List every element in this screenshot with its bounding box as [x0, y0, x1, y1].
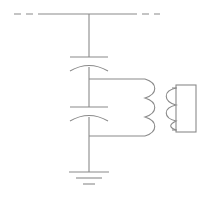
- load-box: [176, 85, 196, 132]
- transformer-primary-winding: [145, 79, 155, 136]
- primary-coil-path: [145, 79, 155, 136]
- load-box-rect: [176, 85, 196, 132]
- circuit-schematic-svg: Capacitive voltage divider with coupling…: [0, 0, 204, 199]
- circuit-diagram: Capacitive voltage divider with coupling…: [0, 0, 204, 199]
- transformer-secondary-winding: [166, 88, 176, 130]
- secondary-coil-path: [166, 88, 176, 130]
- ground-symbol: [69, 172, 109, 184]
